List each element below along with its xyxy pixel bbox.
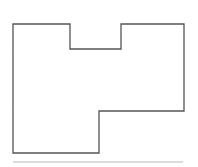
diagram-svg <box>0 0 198 167</box>
shape-outline <box>13 24 184 153</box>
diagram-canvas <box>0 0 198 167</box>
